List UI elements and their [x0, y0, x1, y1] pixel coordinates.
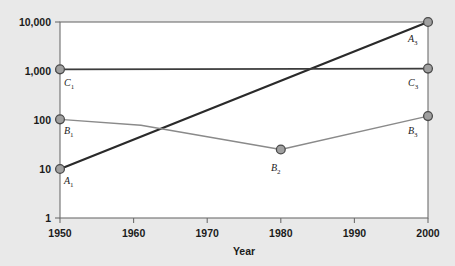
- y-tick-label-1: 1: [45, 212, 51, 224]
- x-tick-label-2000: 2000: [416, 227, 440, 239]
- x-axis-title: Year: [233, 245, 255, 257]
- plot-background: [60, 22, 428, 218]
- log-scale-line-chart: 10,000 1,000 100 10 1 1950 1960 1970 198…: [0, 0, 455, 266]
- x-tick-label-1980: 1980: [269, 227, 293, 239]
- x-tick-label-1990: 1990: [343, 227, 367, 239]
- y-tick-label-100: 100: [33, 114, 51, 126]
- data-point-C1[interactable]: [56, 65, 65, 74]
- x-tick-label-1950: 1950: [48, 227, 72, 239]
- data-point-B3[interactable]: [424, 112, 433, 121]
- data-point-C3[interactable]: [424, 64, 433, 73]
- chart-canvas: 10,000 1,000 100 10 1 1950 1960 1970 198…: [0, 0, 455, 266]
- y-tick-label-10: 10: [39, 163, 51, 175]
- data-point-A3[interactable]: [424, 18, 433, 27]
- data-point-B2[interactable]: [276, 145, 285, 154]
- x-tick-label-1970: 1970: [196, 227, 220, 239]
- y-tick-label-1000: 1,000: [25, 65, 51, 77]
- series-line-C: [60, 69, 428, 70]
- y-tick-label-10000: 10,000: [19, 16, 51, 28]
- data-point-B1[interactable]: [56, 115, 65, 124]
- x-tick-label-1960: 1960: [122, 227, 146, 239]
- data-point-A1[interactable]: [56, 165, 65, 174]
